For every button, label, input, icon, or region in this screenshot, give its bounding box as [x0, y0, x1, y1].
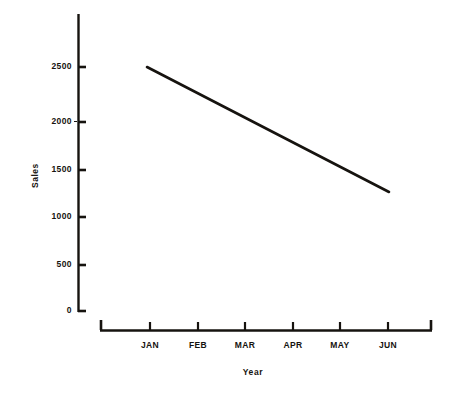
y-tick-label-500: 500 — [26, 260, 72, 269]
x-tick-label-mar: MAR — [222, 341, 268, 350]
x-tick-label-feb: FEB — [175, 341, 221, 350]
x-tick-label-may: MAY — [317, 341, 363, 350]
x-axis-title: Year — [213, 368, 293, 377]
y-tick-label-0: 0 — [26, 306, 72, 315]
y-tick-label-2500: 2500 — [26, 62, 72, 71]
x-tick-label-jan: JAN — [127, 341, 173, 350]
x-tick-label-jun: JUN — [365, 341, 411, 350]
y-tick-label-2000: 2000 — [26, 117, 72, 126]
chart-canvas — [0, 0, 454, 394]
x-tick-label-apr: APR — [270, 341, 316, 350]
y-tick-label-1000: 1000 — [26, 212, 72, 221]
chart-page: 2500 2000 1500 1000 500 0 Sales JAN FEB … — [0, 0, 454, 394]
line-chart: 2500 2000 1500 1000 500 0 Sales JAN FEB … — [0, 0, 454, 394]
series-line-sales — [147, 67, 389, 192]
y-axis-title: Sales — [31, 163, 40, 188]
y-tick-label-2000-dash — [74, 121, 77, 122]
